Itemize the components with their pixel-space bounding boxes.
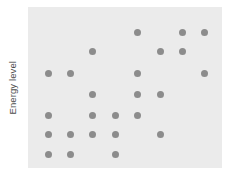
scatter-point: [179, 48, 186, 55]
x-axis-label-container: [28, 172, 222, 183]
scatter-point: [89, 91, 96, 98]
scatter-point: [112, 151, 119, 158]
scatter-point: [134, 112, 141, 119]
scatter-point: [45, 70, 52, 77]
scatter-point: [201, 70, 208, 77]
scatter-point: [67, 151, 74, 158]
scatter-point: [134, 29, 141, 36]
scatter-point: [45, 131, 52, 138]
scatter-chart-figure: Energy level: [0, 0, 232, 183]
scatter-point: [89, 112, 96, 119]
scatter-point: [179, 29, 186, 36]
scatter-point: [45, 151, 52, 158]
scatter-point: [134, 91, 141, 98]
y-axis-label-container: Energy level: [0, 0, 26, 175]
scatter-point: [89, 131, 96, 138]
scatter-point: [67, 131, 74, 138]
scatter-point: [112, 112, 119, 119]
scatter-point: [134, 70, 141, 77]
scatter-point: [67, 70, 74, 77]
scatter-point: [201, 29, 208, 36]
scatter-points-layer: [28, 7, 222, 168]
scatter-point: [89, 48, 96, 55]
scatter-point: [157, 131, 164, 138]
scatter-point: [45, 112, 52, 119]
scatter-point: [157, 48, 164, 55]
y-axis-label: Energy level: [8, 61, 18, 114]
scatter-point: [157, 91, 164, 98]
scatter-point: [112, 131, 119, 138]
plot-panel: [28, 7, 222, 168]
